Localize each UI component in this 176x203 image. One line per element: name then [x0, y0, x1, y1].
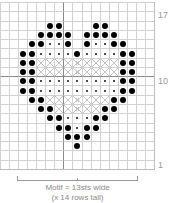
empty-stitch [36, 141, 45, 150]
empty-stitch [127, 95, 136, 104]
cross-stitch [72, 104, 81, 113]
large-dot-stitch [54, 123, 63, 132]
empty-stitch [145, 104, 154, 113]
empty-stitch [27, 113, 36, 122]
cross-stitch [72, 95, 81, 104]
cross-stitch [36, 67, 45, 76]
large-dot-stitch [18, 48, 27, 57]
cross-stitch [100, 58, 109, 67]
empty-stitch [18, 113, 27, 122]
large-dot-stitch [54, 30, 63, 39]
empty-stitch [18, 21, 27, 30]
empty-stitch [9, 76, 18, 85]
large-dot-stitch [18, 67, 27, 76]
empty-stitch [27, 123, 36, 132]
empty-stitch [9, 58, 18, 67]
empty-stitch [145, 48, 154, 57]
empty-stitch [145, 150, 154, 159]
empty-stitch [145, 95, 154, 104]
empty-stitch [18, 39, 27, 48]
empty-stitch [63, 150, 72, 159]
cross-stitch [54, 95, 63, 104]
cross-stitch [45, 95, 54, 104]
empty-stitch [36, 11, 45, 20]
empty-stitch [136, 76, 145, 85]
empty-stitch [0, 48, 9, 57]
empty-stitch [27, 11, 36, 20]
empty-stitch [118, 2, 127, 11]
small-dot-stitch [63, 113, 72, 122]
empty-stitch [127, 30, 136, 39]
empty-stitch [18, 11, 27, 20]
small-dot-stitch [100, 76, 109, 85]
empty-stitch [9, 21, 18, 30]
empty-stitch [45, 160, 54, 169]
empty-stitch [145, 123, 154, 132]
empty-stitch [118, 132, 127, 141]
empty-stitch [0, 95, 9, 104]
empty-stitch [18, 30, 27, 39]
empty-stitch [0, 113, 9, 122]
empty-stitch [9, 141, 18, 150]
small-dot-stitch [72, 123, 81, 132]
cross-stitch [63, 67, 72, 76]
empty-stitch [63, 11, 72, 20]
small-dot-stitch [109, 76, 118, 85]
large-dot-stitch [27, 48, 36, 57]
empty-stitch [82, 141, 91, 150]
empty-stitch [0, 30, 9, 39]
empty-stitch [0, 21, 9, 30]
empty-stitch [118, 113, 127, 122]
large-dot-stitch [63, 39, 72, 48]
empty-stitch [18, 141, 27, 150]
large-dot-stitch [91, 21, 100, 30]
bracket-center-tick [77, 178, 78, 181]
motif-caption-height: (x 14 rows tall) [0, 193, 155, 203]
empty-stitch [145, 76, 154, 85]
large-dot-stitch [27, 67, 36, 76]
large-dot-stitch [127, 67, 136, 76]
large-dot-stitch [82, 123, 91, 132]
empty-stitch [136, 150, 145, 159]
row-label-10: 10 [158, 76, 168, 86]
empty-stitch [9, 160, 18, 169]
large-dot-stitch [118, 95, 127, 104]
large-dot-stitch [63, 30, 72, 39]
large-dot-stitch [109, 30, 118, 39]
empty-stitch [127, 104, 136, 113]
large-dot-stitch [100, 21, 109, 30]
small-dot-stitch [100, 48, 109, 57]
small-dot-stitch [63, 85, 72, 94]
small-dot-stitch [54, 76, 63, 85]
empty-stitch [36, 132, 45, 141]
empty-stitch [54, 11, 63, 20]
empty-stitch [136, 85, 145, 94]
empty-stitch [82, 150, 91, 159]
empty-stitch [145, 39, 154, 48]
empty-stitch [9, 85, 18, 94]
empty-stitch [145, 113, 154, 122]
empty-stitch [109, 141, 118, 150]
empty-stitch [18, 95, 27, 104]
empty-stitch [9, 113, 18, 122]
cross-stitch [109, 58, 118, 67]
empty-stitch [127, 132, 136, 141]
large-dot-stitch [118, 67, 127, 76]
empty-stitch [91, 132, 100, 141]
large-dot-stitch [45, 30, 54, 39]
large-dot-stitch [91, 30, 100, 39]
cross-stitch [54, 104, 63, 113]
large-dot-stitch [72, 141, 81, 150]
empty-stitch [9, 123, 18, 132]
empty-stitch [27, 21, 36, 30]
cross-stitch [109, 67, 118, 76]
empty-stitch [109, 2, 118, 11]
cross-stitch [45, 67, 54, 76]
large-dot-stitch [118, 48, 127, 57]
large-dot-stitch [109, 104, 118, 113]
empty-stitch [72, 11, 81, 20]
empty-stitch [127, 11, 136, 20]
cross-stitch [82, 67, 91, 76]
empty-stitch [27, 132, 36, 141]
small-dot-stitch [36, 48, 45, 57]
